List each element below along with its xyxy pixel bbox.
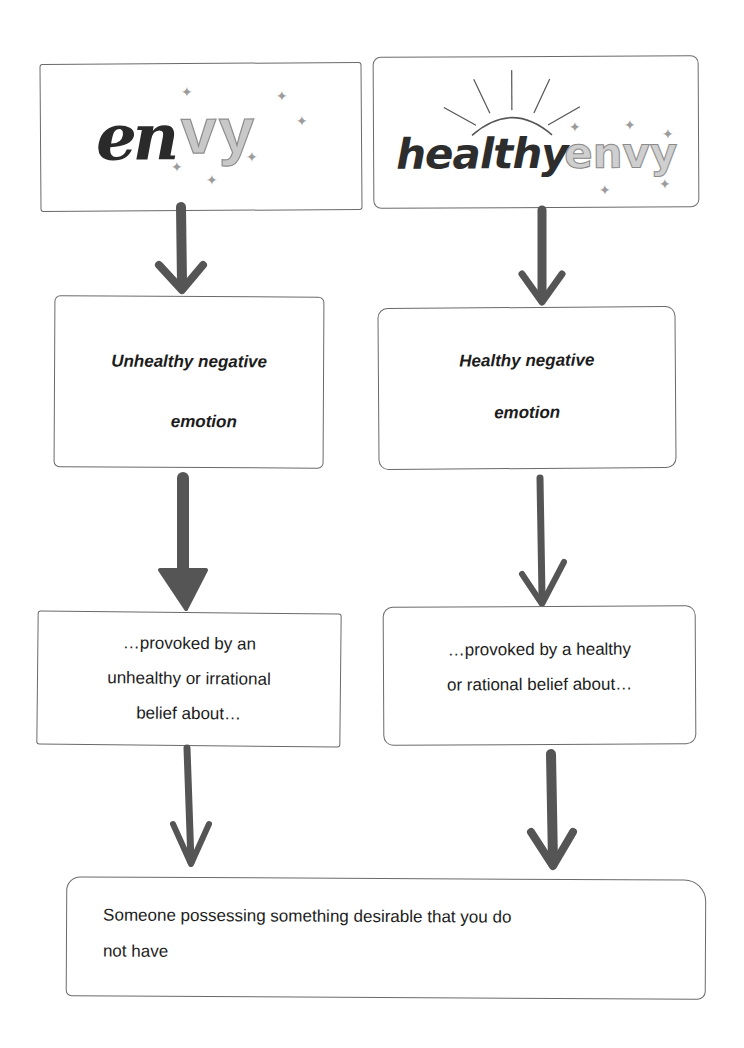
rational-belief-line1: …provoked by a healthy: [384, 631, 695, 668]
sparkle-icon: ✦: [181, 84, 193, 100]
envy-logo-text: envy: [564, 128, 677, 178]
unhealthy-emotion-box: Unhealthy negative emotion: [54, 295, 325, 468]
arrow-down-icon: [512, 474, 572, 614]
sparkle-icon: ✦: [599, 182, 611, 198]
irrational-belief-line1: …provoked by an: [38, 624, 340, 662]
unhealthy-emotion-line1: Unhealthy negative: [55, 338, 323, 385]
healthy-emotion-line2: emotion: [379, 389, 675, 437]
arrow-down-icon: [512, 208, 572, 308]
arrow-down-icon: [523, 750, 583, 880]
sparkle-icon: ✦: [206, 172, 218, 188]
healthy-emotion-line1: Healthy negative: [379, 337, 675, 385]
arrow-down-icon: [161, 744, 221, 874]
sparkle-icon: ✦: [659, 176, 671, 192]
sparkle-icon: ✦: [171, 159, 183, 175]
healthy-envy-title-box: healthy envy ✦ ✦ ✦ ✦ ✦: [373, 55, 700, 209]
irrational-belief-line3: belief about…: [37, 694, 339, 732]
sparkle-icon: ✦: [276, 88, 288, 104]
sparkle-icon: ✦: [296, 113, 308, 129]
desirable-possession-line1: Someone possessing something desirable t…: [103, 898, 705, 936]
desirable-possession-box: Someone possessing something desirable t…: [66, 876, 707, 999]
arrow-down-icon: [153, 205, 213, 295]
unhealthy-emotion-line2: emotion: [85, 398, 323, 445]
envy-title-box: en vy ✦ ✦ ✦ ✦ ✦ ✦: [39, 62, 362, 212]
envy-logo-en: en: [96, 99, 176, 175]
healthy-logo-text: healthy: [396, 129, 568, 179]
desirable-possession-line2: not have: [103, 934, 705, 972]
rational-belief-line2: or rational belief about…: [384, 666, 695, 703]
irrational-belief-box: …provoked by an unhealthy or irrational …: [36, 610, 341, 747]
sparkle-icon: ✦: [246, 149, 258, 165]
arrow-down-icon: [150, 474, 220, 614]
envy-logo-vy: vy: [181, 94, 257, 169]
irrational-belief-line2: unhealthy or irrational: [38, 659, 340, 697]
rational-belief-box: …provoked by a healthy or rational belie…: [383, 605, 697, 746]
sparkle-icon: ✦: [662, 126, 674, 142]
sparkle-icon: ✦: [624, 116, 636, 132]
healthy-emotion-box: Healthy negative emotion: [377, 306, 676, 470]
sparkle-icon: ✦: [569, 119, 581, 135]
